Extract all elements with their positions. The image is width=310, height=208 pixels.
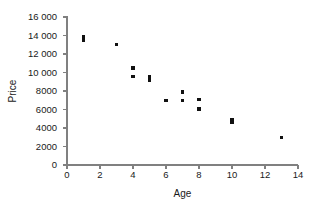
y-axis-tick-label: 16 000 (28, 11, 57, 22)
x-axis-tick-label: 14 (293, 169, 304, 180)
data-point (280, 136, 283, 139)
data-point (115, 43, 118, 46)
y-axis-tick-label: 6000 (36, 104, 57, 115)
x-axis-tick-label: 0 (64, 169, 69, 180)
y-axis-tick-label: 4000 (36, 122, 57, 133)
y-axis-tick-label: 8000 (36, 85, 57, 96)
data-point (197, 98, 200, 101)
y-axis-title: Price (7, 79, 18, 102)
y-axis-tick-label: 10 000 (28, 67, 57, 78)
data-point (82, 35, 85, 38)
y-axis-tick-label: 0 (52, 159, 57, 170)
scatter-chart: 0200040006000800010 00012 00014 00016 00… (0, 0, 310, 208)
data-point (82, 38, 85, 41)
data-point (131, 75, 134, 78)
data-point (181, 99, 184, 102)
x-axis-tick-label: 12 (260, 169, 271, 180)
x-axis-tick-label: 4 (130, 169, 135, 180)
data-point (148, 79, 151, 82)
data-point (148, 75, 151, 78)
data-point (164, 99, 167, 102)
y-axis-tick-label: 12 000 (28, 48, 57, 59)
x-axis-tick-label: 8 (196, 169, 201, 180)
x-axis-tick-label: 2 (97, 169, 102, 180)
y-axis-tick-label: 2000 (36, 141, 57, 152)
data-point (197, 107, 200, 110)
y-axis-tick-label: 14 000 (28, 30, 57, 41)
chart-canvas: 0200040006000800010 00012 00014 00016 00… (0, 0, 310, 208)
x-axis-title: Age (174, 188, 192, 199)
x-axis-tick-label: 6 (163, 169, 168, 180)
x-axis-tick-label: 10 (227, 169, 238, 180)
data-point (230, 120, 233, 123)
data-point (181, 90, 184, 93)
data-point (131, 66, 134, 69)
